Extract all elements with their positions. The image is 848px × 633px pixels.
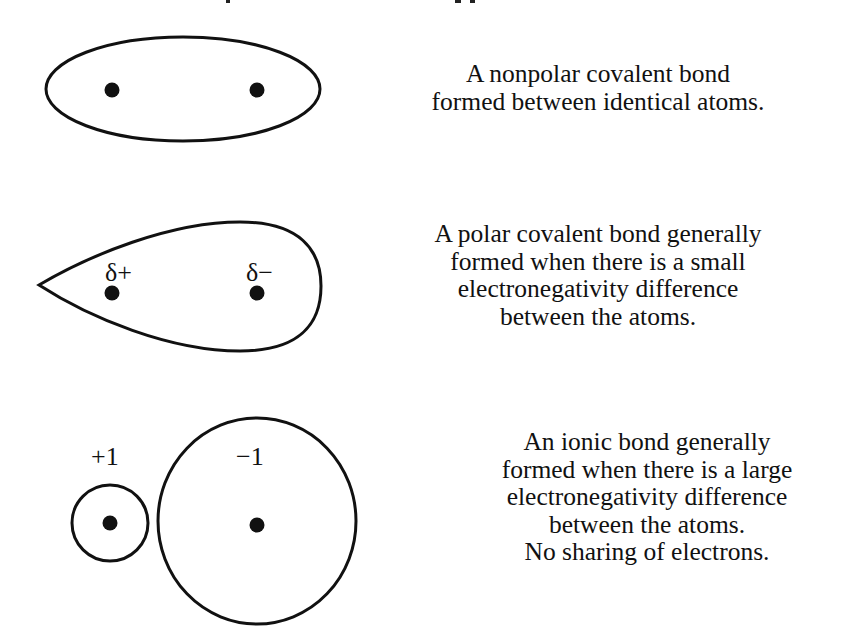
description-line: between the atoms. <box>380 303 816 331</box>
description-line: formed when there is a large <box>440 456 848 484</box>
nonpolar-bond-diagram <box>46 37 320 141</box>
description-line: formed between identical atoms. <box>380 88 816 116</box>
nucleus-dot <box>103 516 118 531</box>
nucleus-dot <box>105 286 120 301</box>
description-line: between the atoms. <box>440 511 848 539</box>
description-line: An ionic bond generally <box>440 428 848 456</box>
nucleus-dot <box>250 286 265 301</box>
cation-charge-label: +1 <box>91 442 119 471</box>
description-line: electronegativity difference <box>380 275 816 303</box>
cropped-title-fragments <box>226 0 475 3</box>
nonpolar-description: A nonpolar covalent bond formed between … <box>380 60 816 115</box>
polar-description: A polar covalent bond generally formed w… <box>380 220 816 330</box>
description-line: A nonpolar covalent bond <box>380 60 816 88</box>
partial-negative-label: δ− <box>246 258 273 287</box>
nucleus-dot <box>250 83 265 98</box>
nucleus-dot <box>250 518 265 533</box>
anion-charge-label: −1 <box>236 442 264 471</box>
polar-bond-diagram: δ+ δ− <box>39 222 321 351</box>
ionic-bond-diagram: +1 −1 <box>72 418 356 624</box>
description-line: formed when there is a small <box>380 248 816 276</box>
electron-cloud-teardrop <box>39 222 321 351</box>
description-line: A polar covalent bond generally <box>380 220 816 248</box>
nucleus-dot <box>105 83 120 98</box>
partial-positive-label: δ+ <box>105 258 132 287</box>
ionic-description: An ionic bond generally formed when ther… <box>440 428 848 566</box>
description-line: electronegativity difference <box>440 483 848 511</box>
description-line: No sharing of electrons. <box>440 538 848 566</box>
electron-cloud-ellipse <box>46 37 320 141</box>
